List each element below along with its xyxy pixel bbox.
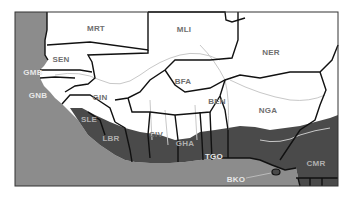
country-label-gin: GIN <box>93 93 108 102</box>
country-label-cmr: CMR <box>307 159 326 168</box>
country-label-tgo: TGO <box>205 152 223 161</box>
country-label-bko: BKO <box>227 175 245 184</box>
country-label-sle: SLE <box>81 115 97 124</box>
country-label-gmb: GMB <box>23 68 42 77</box>
country-label-civ: CIV <box>149 130 163 139</box>
country-label-nga: NGA <box>259 106 277 115</box>
country-label-bfa: BFA <box>175 77 192 86</box>
country-label-gnb: GNB <box>29 91 47 100</box>
country-label-lbr: LBR <box>102 134 119 143</box>
country-label-mrt: MRT <box>87 24 105 33</box>
country-label-gha: GHA <box>176 139 194 148</box>
country-label-mli: MLI <box>177 25 191 34</box>
country-label-sen: SEN <box>52 55 69 64</box>
country-label-ner: NER <box>262 48 280 57</box>
bioko-island <box>272 169 280 175</box>
west-africa-map: MRT MLI NER SEN GMB GNB GIN BFA BEN NGA … <box>0 0 352 199</box>
country-label-ben: BEN <box>208 97 226 106</box>
